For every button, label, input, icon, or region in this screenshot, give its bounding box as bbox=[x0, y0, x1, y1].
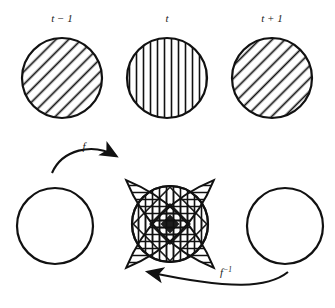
source-circle-empty bbox=[17, 188, 93, 264]
inverse-map-arrow-label: f−1 bbox=[220, 265, 232, 278]
forward-map-arrow bbox=[52, 149, 116, 173]
figure-canvas: t − 1 t t + 1 bbox=[0, 0, 335, 308]
target-circle-empty bbox=[247, 188, 323, 264]
bottom-row-group bbox=[17, 171, 323, 277]
inverse-map-arrow bbox=[148, 272, 288, 285]
time-label-t-plus-1: t + 1 bbox=[261, 12, 282, 24]
state-circle-t-plus-1-shape bbox=[232, 38, 312, 118]
time-label-t: t bbox=[165, 12, 169, 24]
figure-svg: t − 1 t t + 1 bbox=[0, 0, 335, 308]
state-circle-t-minus-1-shape bbox=[22, 38, 102, 118]
top-row-group: t − 1 t t + 1 bbox=[22, 12, 312, 118]
state-circle-t-minus-1 bbox=[22, 38, 102, 118]
state-circle-t-plus-1 bbox=[232, 38, 312, 118]
time-label-t-minus-1: t − 1 bbox=[51, 12, 72, 24]
center-star-figure bbox=[117, 171, 223, 277]
state-circle-t-shape bbox=[127, 38, 207, 118]
inverse-map-arrow-label-superscript: −1 bbox=[223, 265, 232, 274]
state-circle-t bbox=[127, 38, 207, 118]
